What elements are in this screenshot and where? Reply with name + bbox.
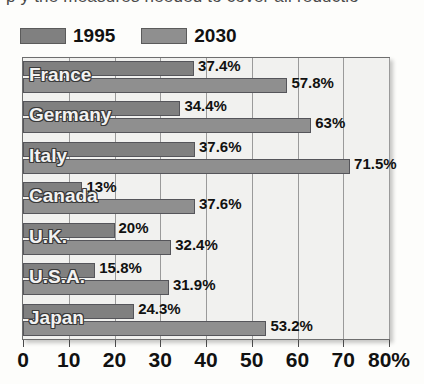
- x-tick-10: [69, 340, 70, 347]
- legend-label-1995: 1995: [73, 26, 115, 45]
- bar-group: 37.4%57.8%France: [23, 61, 389, 101]
- bar-group: 20%32.4%U.K.: [23, 223, 389, 263]
- bar-1995: [23, 223, 115, 238]
- bar-1995: [23, 101, 180, 116]
- x-tick-label-10: 10: [57, 348, 80, 372]
- x-tick-30: [160, 340, 161, 347]
- x-tick-label-50: 50: [240, 348, 263, 372]
- x-tick-label-0: 0: [17, 348, 29, 372]
- x-tick-label-80: 80%: [368, 348, 410, 372]
- bar-value-1995: 37.6%: [199, 139, 242, 154]
- bar-value-1995: 20%: [119, 220, 149, 235]
- bar-value-2030: 63%: [315, 115, 345, 130]
- bar-1995: [23, 182, 82, 197]
- bar-1995: [23, 61, 194, 76]
- bar-value-1995: 24.3%: [138, 301, 181, 316]
- legend-swatch-2030: [141, 28, 187, 44]
- bar-value-1995: 15.8%: [99, 260, 142, 275]
- x-tick-label-20: 20: [103, 348, 126, 372]
- x-tick-label-70: 70: [332, 348, 355, 372]
- bar-value-2030: 31.9%: [173, 277, 216, 292]
- bar-2030: [23, 199, 195, 214]
- gridline-80: [389, 58, 390, 339]
- x-tick-20: [115, 340, 116, 347]
- legend-item-1995: 1995: [20, 26, 115, 45]
- bar-group: 24.3%53.2%Japan: [23, 304, 389, 344]
- bar-2030: [23, 118, 311, 133]
- bar-value-1995: 34.4%: [184, 98, 227, 113]
- bar-2030: [23, 159, 350, 174]
- bar-value-2030: 53.2%: [270, 318, 313, 333]
- x-tick-70: [343, 340, 344, 347]
- bar-value-2030: 32.4%: [175, 237, 218, 252]
- bar-value-1995: 37.4%: [198, 58, 241, 73]
- bar-group: 13%37.6%Canada: [23, 182, 389, 222]
- bar-1995: [23, 263, 95, 278]
- x-tick-40: [206, 340, 207, 347]
- bar-2030: [23, 321, 266, 336]
- legend-swatch-1995: [20, 28, 66, 44]
- chart-bars-layer: 37.4%57.8%France34.4%63%Germany37.6%71.5…: [23, 58, 389, 339]
- bar-value-2030: 37.6%: [199, 196, 242, 211]
- x-tick-0: [23, 340, 24, 347]
- legend-item-2030: 2030: [141, 26, 236, 45]
- chart-x-axis: 01020304050607080%: [22, 340, 391, 384]
- bar-value-1995: 13%: [86, 179, 116, 194]
- chart-plot-area: 37.4%57.8%France34.4%63%Germany37.6%71.5…: [22, 57, 390, 340]
- bar-2030: [23, 280, 169, 295]
- bar-2030: [23, 240, 171, 255]
- chart-legend: 1995 2030: [20, 26, 237, 45]
- bar-group: 37.6%71.5%Italy: [23, 142, 389, 182]
- bar-1995: [23, 142, 195, 157]
- clipped-body-text: p y the measures needed to cover all red…: [0, 0, 424, 16]
- bar-value-2030: 71.5%: [354, 156, 397, 171]
- x-tick-label-60: 60: [286, 348, 309, 372]
- bar-2030: [23, 78, 287, 93]
- x-tick-50: [252, 340, 253, 347]
- x-tick-60: [298, 340, 299, 347]
- bar-1995: [23, 304, 134, 319]
- legend-label-2030: 2030: [194, 26, 236, 45]
- bar-value-2030: 57.8%: [291, 75, 334, 90]
- x-tick-label-40: 40: [194, 348, 217, 372]
- x-tick-label-30: 30: [149, 348, 172, 372]
- bar-group: 34.4%63%Germany: [23, 101, 389, 141]
- x-tick-80: [389, 340, 390, 347]
- clipped-body-text-line: p y the measures needed to cover all red…: [6, 0, 359, 7]
- bar-group: 15.8%31.9%U.S.A.: [23, 263, 389, 303]
